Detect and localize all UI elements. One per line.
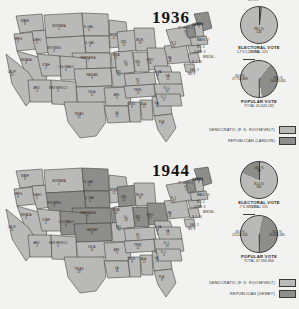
state-label-wyoming: WYOMING3: [45, 48, 63, 53]
state-label-nc: N. C.13: [158, 88, 176, 93]
legend-label-democratic-1936: DEMOCRATIC (F. D. ROOSEVELT): [209, 128, 275, 132]
legend-row-republican-1936: REPUBLICAN (LANDON): [176, 137, 296, 145]
state-label-idaho: IDAHO4: [28, 195, 46, 200]
state-label-texas: TEXAS23: [70, 114, 88, 119]
state-label-nevada: NEVADA3: [17, 60, 35, 65]
state-label-ny: N. Y.47: [165, 43, 183, 48]
state-label-ariz: ARIZ.3: [28, 88, 46, 93]
state-label-mo: MO.15: [110, 72, 128, 77]
state-label-ky: KY.11: [129, 235, 147, 240]
state-label-tenn: TENN.11: [129, 90, 147, 95]
state-label-newmexico: NEW MEXICO4: [49, 243, 67, 248]
legend-swatch-democratic-1936: [279, 126, 296, 134]
legend-swatch-democratic-1944: [279, 279, 296, 287]
state-label-ohio: OHIO26: [141, 60, 159, 65]
state-label-ny: N. Y.47: [165, 198, 183, 203]
state-callout-ri: R. I. 4: [197, 202, 205, 205]
state-label-ga: GA.12: [148, 258, 166, 263]
state-label-pa: PA.35: [161, 213, 179, 218]
legend-row-democratic-1936: DEMOCRATIC (F. D. ROOSEVELT): [176, 126, 296, 134]
state-label-minn: MINN.11: [105, 190, 123, 195]
popular-pie-1944: 53.4 % 25,606,585 45.9 % 22,014,745 .7 %…: [219, 215, 299, 263]
state-callout-maine: MAINE 5: [192, 25, 203, 28]
popular-pie-1936: 60.8 % 27,752,869 36.5 % 16,674,665 2.7 …: [219, 60, 299, 108]
legend-swatch-republican-1936: [279, 137, 296, 145]
state-label-sc: S. C.8: [155, 252, 173, 257]
popular-misc-label-1936: 2.7 % 1,200,900: [235, 51, 261, 54]
state-label-utah: UTAH4: [37, 220, 55, 225]
state-label-ohio: OHIO25: [141, 215, 159, 220]
state-label-fla: FLA.7: [153, 122, 171, 127]
state-label-ndak: N. DAK.4: [80, 27, 98, 32]
state-callout-mass: MASS. 17: [197, 40, 209, 43]
popular-misc-caption-1936: MISCEL.: [197, 56, 221, 59]
state-callout-ri: R. I. 4: [197, 47, 205, 50]
state-callout-mass: MASS. 16: [197, 195, 209, 198]
state-label-wash: WASH8: [16, 176, 34, 181]
state-label-tenn: TENN.12: [129, 245, 147, 250]
state-label-montana: MONTANA4: [50, 26, 68, 31]
state-label-pa: PA.36: [161, 58, 179, 63]
state-callout-nj: N. J. 16: [192, 217, 202, 220]
electoral-winner-label-1944: 81.4 % 432: [243, 183, 275, 190]
state-label-va: VA.11: [159, 76, 177, 81]
state-label-la: LA.10: [108, 268, 126, 273]
electoral-loser-label-1936: 1.5 % 8: [241, 0, 265, 2]
state-label-wyoming: WYOMING3: [45, 203, 63, 208]
state-label-sdak: S. DAK.4: [81, 198, 99, 203]
popular-total-1944: TOTAL 47,966,866: [219, 259, 299, 263]
state-label-mo: MO.15: [110, 227, 128, 232]
popular-loser-label-1936: 36.5 % 16,674,665: [263, 77, 293, 84]
state-label-mich: MICH.19: [131, 40, 149, 45]
state-label-va: VA.11: [159, 231, 177, 236]
state-label-kansas: KANSAS9: [83, 75, 101, 80]
state-label-vt: VT.3: [177, 187, 195, 192]
state-label-calif: CALIF.25: [3, 227, 21, 232]
state-label-newmexico: NEW MEXICO3: [49, 88, 67, 93]
legend-label-republican-1944: REPUBLICAN (DEWEY): [230, 292, 275, 296]
legend-label-democratic-1944: DEMOCRATIC (F. D. ROOSEVELT): [209, 281, 275, 285]
state-callout-maine: MAINE 5: [192, 180, 203, 183]
state-label-fla: FLA.8: [153, 277, 171, 282]
state-label-iowa: IOWA10: [107, 210, 125, 215]
electoral-pie-1944: 81.4 % 432 18.6 % 99 ELECTORAL VOTE TOTA…: [219, 161, 299, 209]
legend-row-republican-1944: REPUBLICAN (DEWEY): [176, 290, 296, 298]
electoral-pie-1936: 98.5 % 523 1.5 % 8 ELECTORAL VOTE TOTAL …: [219, 6, 299, 54]
state-label-ga: GA.12: [148, 103, 166, 108]
state-label-ky: KY.11: [129, 80, 147, 85]
electoral-winner-label-1936: 98.5 % 523: [243, 28, 275, 35]
state-label-sc: S. C.8: [155, 97, 173, 102]
state-label-utah: UTAH4: [37, 65, 55, 70]
popular-total-1936: TOTAL 45,643,182: [219, 104, 299, 108]
state-label-ark: ARK.9: [108, 95, 126, 100]
popular-misc-label-1944: .7 % 345,536: [235, 206, 261, 209]
state-label-colorado: COLORADO6: [57, 67, 75, 72]
state-label-okla: OKLA.10: [83, 247, 101, 252]
state-label-nebraska: NEBRASKA7: [79, 58, 97, 63]
panel-1936: 1936: [0, 0, 299, 154]
state-label-kansas: KANSAS8: [83, 230, 101, 235]
state-label-minn: MINN.11: [105, 35, 123, 40]
legend-1936: DEMOCRATIC (F. D. ROOSEVELT) REPUBLICAN …: [176, 126, 296, 148]
state-callout-nh: N. H. 4: [184, 183, 193, 186]
state-label-vt: VT.3: [177, 32, 195, 37]
state-label-sdak: S. DAK.4: [81, 43, 99, 48]
legend-1944: DEMOCRATIC (F. D. ROOSEVELT) REPUBLICAN …: [176, 279, 296, 301]
popular-misc-caption-1944: MISCEL.: [197, 211, 221, 214]
electoral-loser-label-1944: 18.6 % 99: [245, 167, 273, 174]
state-label-ariz: ARIZ.4: [28, 243, 46, 248]
state-label-wash: WASH8: [16, 21, 34, 26]
state-label-colorado: COLORADO6: [57, 222, 75, 227]
state-callout-md: MD. 8: [188, 229, 195, 232]
state-label-la: LA.10: [108, 113, 126, 118]
state-label-idaho: IDAHO4: [28, 40, 46, 45]
state-label-montana: MONTANA4: [50, 181, 68, 186]
legend-row-democratic-1944: DEMOCRATIC (F. D. ROOSEVELT): [176, 279, 296, 287]
popular-winner-label-1936: 60.8 % 27,752,869: [225, 75, 255, 82]
state-callout-nj: N. J. 16: [192, 62, 202, 65]
state-label-mich: MICH.19: [131, 195, 149, 200]
state-label-iowa: IOWA11: [107, 55, 125, 60]
state-callout-nh: N. H. 4: [184, 28, 193, 31]
state-label-oreg: OREG5: [9, 39, 27, 44]
panel-1944: 1944: [0, 155, 299, 309]
